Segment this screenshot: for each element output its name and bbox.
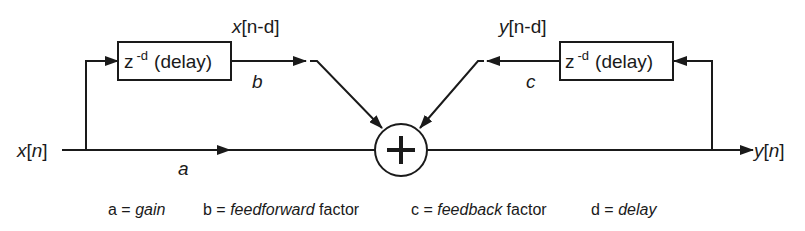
feedback-gain-label: c <box>526 71 536 92</box>
feedforward-branch-line <box>86 61 118 150</box>
output-label: y[n] <box>752 140 785 161</box>
comb-filter-diagram: x[n] a z-d(delay) x[n-d] b y[n] z-d(dela… <box>0 0 805 231</box>
legend-feedforward: b = feedforward factor <box>203 201 360 218</box>
legend-feedback: c = feedback factor <box>411 201 547 218</box>
feedback-to-summer-arrow <box>420 61 484 128</box>
input-label: x[n] <box>16 140 48 161</box>
direct-gain-label: a <box>178 158 189 179</box>
feedback-branch-line <box>674 61 712 150</box>
feedback-signal-label: y[n-d] <box>497 16 547 37</box>
legend-gain: a = gain <box>108 201 165 218</box>
feedforward-gain-label: b <box>252 71 263 92</box>
feedforward-signal-label: x[n-d] <box>231 16 280 37</box>
legend-delay: d = delay <box>591 201 657 218</box>
feedforward-to-summer-arrow <box>310 61 382 128</box>
